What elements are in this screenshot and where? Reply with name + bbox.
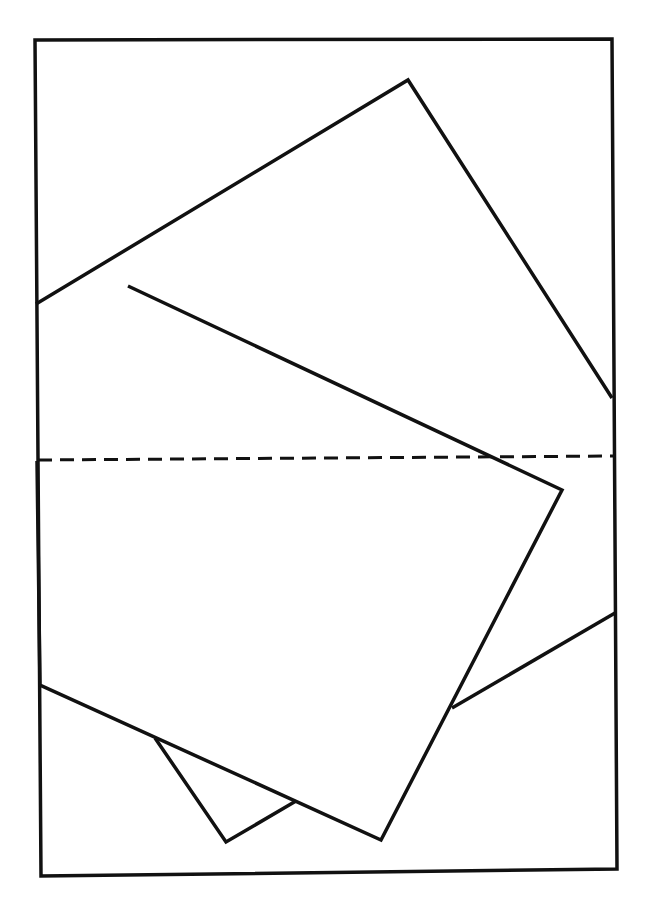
geometry-diagram	[0, 0, 651, 913]
dashed-horizontal-line	[38, 456, 613, 460]
large-rotated-square-lower-edge	[452, 613, 615, 708]
large-rotated-square-upper-edges	[36, 80, 612, 398]
diagram-canvas	[0, 0, 651, 913]
small-rotated-square	[37, 286, 562, 840]
